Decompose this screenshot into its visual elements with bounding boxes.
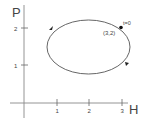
y-tick-label-2: 2 <box>14 26 18 32</box>
y-axis-label: P <box>12 5 21 20</box>
orbit-ellipse <box>47 20 130 74</box>
phase-diagram: P H 2 1 1 2 3 t=0 (3,2) <box>0 0 161 127</box>
start-point <box>119 26 123 30</box>
x-tick-label-1: 1 <box>56 108 60 114</box>
point-label: (3,2) <box>103 30 115 36</box>
x-tick-label-3: 3 <box>121 108 125 114</box>
direction-arrow-left-icon <box>49 26 53 30</box>
start-label: t=0 <box>123 20 131 26</box>
direction-arrow-right-icon <box>125 62 129 66</box>
x-axis-label: H <box>129 102 138 117</box>
x-tick-label-2: 2 <box>88 108 92 114</box>
y-tick-label-1: 1 <box>14 63 18 69</box>
